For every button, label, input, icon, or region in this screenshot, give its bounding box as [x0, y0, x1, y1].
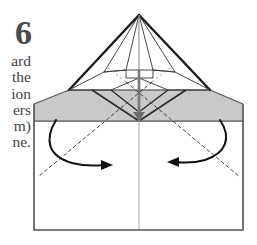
diagram-page: 6 ard the ion ers m) ne. — [0, 0, 257, 245]
origami-diagram — [0, 0, 257, 245]
